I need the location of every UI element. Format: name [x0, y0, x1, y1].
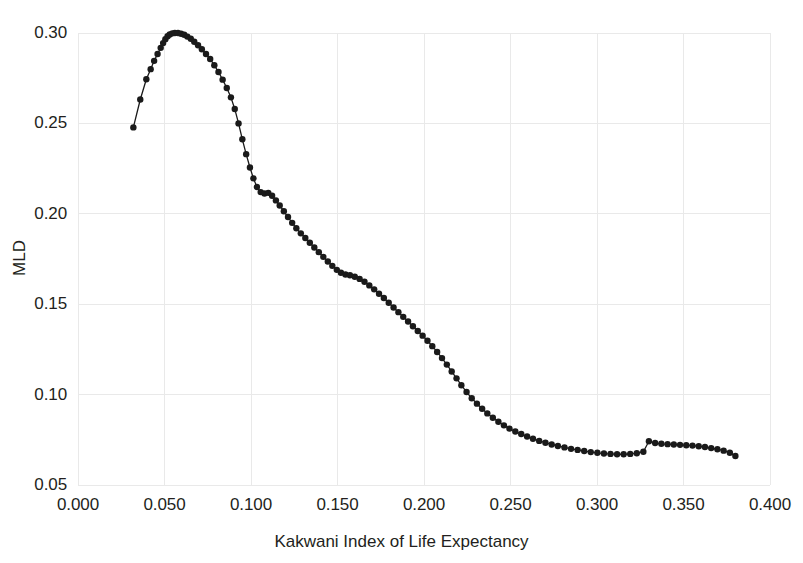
- y-tick-label: 0.20: [34, 204, 67, 224]
- x-tick-label: 0.350: [662, 495, 704, 515]
- y-axis-title: MLD: [10, 158, 30, 358]
- x-axis-title: Kakwani Index of Life Expectancy: [0, 532, 803, 552]
- y-tick-label: 0.30: [34, 23, 67, 43]
- x-tick-label: 0.400: [749, 495, 791, 515]
- chart-figure: 0.050.100.150.200.250.30 0.0000.0500.100…: [0, 0, 803, 563]
- x-gridlines: [78, 33, 770, 485]
- y-tick-label: 0.25: [34, 113, 67, 133]
- y-tick-label: 0.10: [34, 385, 67, 405]
- x-tick-label: 0.100: [230, 495, 272, 515]
- x-tick-label: 0.050: [143, 495, 185, 515]
- x-tick-label: 0.250: [489, 495, 531, 515]
- series-line: [133, 33, 735, 456]
- y-tick-label: 0.15: [34, 294, 67, 314]
- x-tick-label: 0.000: [57, 495, 99, 515]
- x-tick-label: 0.150: [316, 495, 358, 515]
- chart-plot-area: [0, 0, 803, 563]
- x-tick-label: 0.200: [403, 495, 445, 515]
- y-tick-label: 0.05: [34, 475, 67, 495]
- x-tick-label: 0.300: [576, 495, 618, 515]
